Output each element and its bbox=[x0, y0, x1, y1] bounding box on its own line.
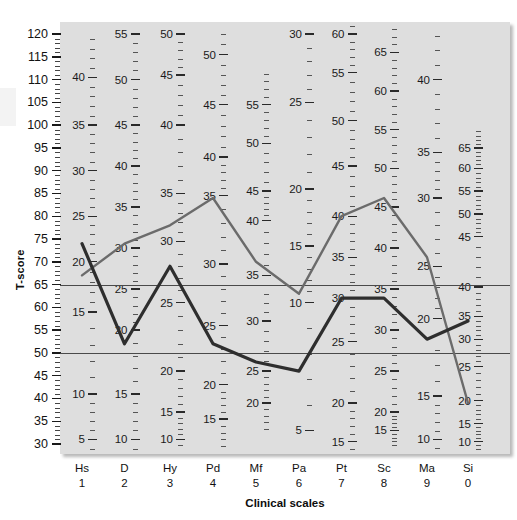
x-label-d: D bbox=[120, 462, 128, 474]
x-label-pd: Pd bbox=[206, 462, 220, 474]
x-label-number-0: 0 bbox=[465, 477, 471, 489]
x-label-number-3: 3 bbox=[167, 477, 173, 489]
mmpi-profile-chart: T-score 12011511010510095908580757065605… bbox=[0, 0, 517, 520]
profile-lines bbox=[0, 0, 517, 520]
x-label-number-5: 5 bbox=[253, 477, 259, 489]
series-profile-dark bbox=[82, 244, 468, 372]
x-label-number-9: 9 bbox=[424, 477, 430, 489]
x-label-number-6: 6 bbox=[296, 477, 302, 489]
x-label-mf: Mf bbox=[250, 462, 263, 474]
series-profile-gray bbox=[82, 198, 468, 403]
x-label-number-2: 2 bbox=[121, 477, 127, 489]
x-label-number-1: 1 bbox=[79, 477, 85, 489]
x-label-hy: Hy bbox=[163, 462, 177, 474]
x-label-number-8: 8 bbox=[381, 477, 387, 489]
x-label-number-7: 7 bbox=[338, 477, 344, 489]
x-label-ma: Ma bbox=[419, 462, 435, 474]
x-label-sc: Sc bbox=[377, 462, 390, 474]
x-axis-title: Clinical scales bbox=[245, 497, 324, 509]
x-label-si: Si bbox=[463, 462, 473, 474]
x-label-pt: Pt bbox=[336, 462, 347, 474]
x-label-number-4: 4 bbox=[210, 477, 216, 489]
x-label-pa: Pa bbox=[292, 462, 306, 474]
x-label-hs: Hs bbox=[75, 462, 89, 474]
